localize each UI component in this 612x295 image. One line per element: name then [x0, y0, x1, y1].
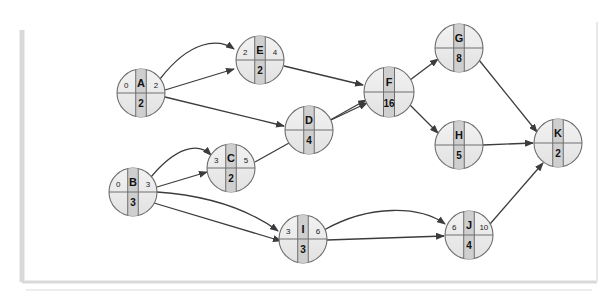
edge-b-to-c	[151, 148, 211, 177]
node-j[interactable]: J6104	[445, 211, 493, 259]
node-earliest-start: 2	[243, 48, 248, 57]
edge-i-to-j	[327, 236, 444, 240]
edge-a-to-e	[160, 43, 234, 79]
node-earliest-start: 3	[214, 156, 219, 165]
node-duration: 2	[228, 173, 234, 184]
node-duration: 4	[306, 135, 312, 146]
node-label: A	[137, 77, 145, 89]
node-earliest-start: 3	[286, 227, 291, 236]
node-label: F	[386, 76, 393, 88]
node-duration: 8	[456, 53, 462, 64]
edge-d-to-f	[331, 103, 367, 120]
node-k[interactable]: K2	[534, 119, 582, 167]
node-g[interactable]: G8	[435, 24, 483, 72]
node-c[interactable]: C352	[207, 144, 255, 192]
node-label: J	[466, 219, 472, 231]
node-duration: 2	[257, 65, 263, 76]
edge-a-to-d	[165, 97, 284, 126]
node-duration: 16	[383, 98, 395, 109]
node-label: K	[554, 127, 562, 139]
node-duration: 3	[130, 197, 136, 208]
edge-layer	[151, 43, 543, 241]
node-a[interactable]: A022	[117, 69, 165, 117]
node-d[interactable]: D4	[285, 106, 333, 154]
node-duration: 2	[555, 148, 561, 159]
node-earliest-start: 0	[116, 180, 121, 189]
node-label: C	[227, 152, 235, 164]
node-i[interactable]: I363	[279, 215, 327, 263]
node-f[interactable]: F16	[364, 67, 414, 117]
node-earliest-finish: 4	[273, 48, 278, 57]
node-label: D	[305, 114, 313, 126]
edge-f-to-g	[410, 59, 438, 80]
figure-root: A022E242D4F16G8H5K2B033C352I363J6104	[0, 0, 612, 295]
node-label: G	[455, 32, 464, 44]
edge-b-to-i	[154, 203, 281, 241]
node-duration: 2	[138, 98, 144, 109]
node-label: E	[256, 44, 263, 56]
node-duration: 3	[300, 244, 306, 255]
node-earliest-start: 0	[124, 81, 129, 90]
node-earliest-finish: 3	[146, 180, 151, 189]
node-label: I	[301, 223, 304, 235]
node-h[interactable]: H5	[435, 121, 483, 169]
network-diagram: A022E242D4F16G8H5K2B033C352I363J6104	[0, 0, 612, 295]
node-earliest-finish: 5	[244, 156, 249, 165]
edge-h-to-k	[483, 143, 533, 145]
node-duration: 4	[466, 240, 472, 251]
edge-g-to-k	[479, 60, 537, 132]
node-earliest-finish: 2	[154, 81, 159, 90]
edge-e-to-f	[284, 66, 363, 85]
node-earliest-start: 6	[452, 223, 457, 232]
edge-i-to-j	[324, 210, 445, 230]
edge-j-to-k	[490, 163, 543, 224]
edge-f-to-h	[410, 105, 438, 133]
node-earliest-finish: 10	[479, 223, 488, 232]
node-b[interactable]: B033	[109, 168, 157, 216]
node-earliest-finish: 6	[316, 227, 321, 236]
node-label: H	[455, 129, 463, 141]
edge-b-to-c	[157, 172, 207, 187]
edge-b-to-i	[157, 192, 278, 231]
node-e[interactable]: E242	[236, 36, 284, 84]
edge-a-to-e	[165, 69, 234, 90]
node-duration: 5	[456, 150, 462, 161]
node-label: B	[129, 176, 137, 188]
